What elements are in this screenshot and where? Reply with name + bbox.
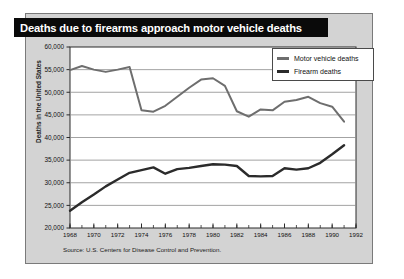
x-tick-label: 1980 [206, 231, 220, 238]
y-tick-label: 40,000 [44, 134, 64, 141]
x-tick-label: 1990 [325, 231, 339, 238]
x-tick-label: 1984 [254, 231, 268, 238]
page-title: Deaths due to firearms approach motor ve… [20, 22, 302, 34]
y-axis-label: Deaths in the United States [35, 42, 42, 162]
y-tick-label: 45,000 [44, 111, 64, 118]
legend-item-label: Motor vehicle deaths [294, 55, 359, 62]
y-axis-ticks: 20,00025,00030,00035,00040,00045,00050,0… [44, 43, 70, 231]
x-tick-label: 1970 [87, 231, 101, 238]
x-tick-label: 1976 [158, 231, 172, 238]
y-tick-label: 35,000 [44, 156, 64, 163]
y-tick-label: 50,000 [44, 89, 64, 96]
x-tick-label: 1992 [349, 231, 363, 238]
chart-legend: Motor vehicle deaths Firearm deaths [272, 48, 374, 81]
x-tick-label: 1968 [63, 231, 77, 238]
x-tick-label: 1982 [230, 231, 244, 238]
y-tick-label: 55,000 [44, 66, 64, 73]
x-tick-label: 1974 [135, 231, 149, 238]
y-tick-label: 20,000 [44, 224, 64, 231]
y-tick-label: 60,000 [44, 43, 64, 50]
legend-item-firearm-deaths: Firearm deaths [277, 65, 369, 78]
x-tick-label: 1988 [301, 231, 315, 238]
x-tick-label: 1972 [111, 231, 125, 238]
legend-item-motor-vehicle-deaths: Motor vehicle deaths [277, 52, 369, 65]
chart-title-banner: Deaths due to firearms approach motor ve… [14, 18, 328, 37]
legend-item-label: Firearm deaths [294, 68, 341, 75]
line-chart: 20,00025,00030,00035,00040,00045,00050,0… [0, 0, 404, 279]
legend-swatch-icon [277, 70, 289, 74]
y-tick-label: 25,000 [44, 202, 64, 209]
source-note: Source: U.S. Centers for Disease Control… [63, 246, 221, 253]
x-tick-label: 1978 [182, 231, 196, 238]
y-tick-label: 30,000 [44, 179, 64, 186]
legend-swatch-icon [277, 57, 289, 60]
x-tick-label: 1986 [278, 231, 292, 238]
figure-container: Deaths due to firearms approach motor ve… [0, 0, 404, 279]
